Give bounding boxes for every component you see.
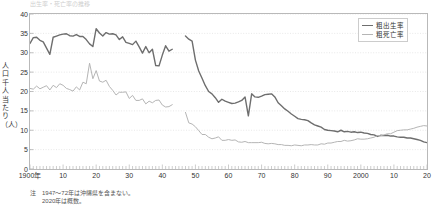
x-tick-label: 80 bbox=[291, 171, 299, 180]
y-tick-label: 35 bbox=[12, 30, 28, 37]
legend-item-death-rate: 粗死亡率 bbox=[362, 30, 404, 39]
x-tick-label: 2000 bbox=[353, 171, 369, 180]
x-tick-label: 70 bbox=[258, 171, 266, 180]
y-tick-label: 20 bbox=[12, 88, 28, 95]
x-tick-label: 1900年 bbox=[19, 171, 42, 180]
y-tick-label: 10 bbox=[12, 127, 28, 134]
y-tick-label: 5 bbox=[12, 146, 28, 153]
series-line-death-rate bbox=[30, 63, 172, 107]
footnote-line-1: 1947～72年は沖縄県を含まない。 bbox=[42, 189, 134, 197]
y-tick-label: 30 bbox=[12, 49, 28, 56]
x-tick-label: 40 bbox=[158, 171, 166, 180]
footnote-body: 1947～72年は沖縄県を含まない。 2020年は概数。 bbox=[42, 189, 134, 205]
x-tick-label: 20 bbox=[423, 171, 431, 180]
x-tick-label: 10 bbox=[390, 171, 398, 180]
series-line-birth-rate bbox=[30, 29, 172, 66]
chart-title-cut: 出生率・死亡率の推移 bbox=[30, 0, 330, 7]
x-tick-label: 20 bbox=[92, 171, 100, 180]
y-tick-label: 25 bbox=[12, 69, 28, 76]
series-line-death-rate bbox=[185, 112, 427, 145]
x-tick-label: 50 bbox=[192, 171, 200, 180]
x-tick-label: 30 bbox=[125, 171, 133, 180]
chart-figure: 出生率・死亡率の推移 人口千人当たり（人） 0510152025303540 1… bbox=[0, 0, 444, 209]
y-tick-label: 15 bbox=[12, 107, 28, 114]
footnote-line-2: 2020年は概数。 bbox=[42, 197, 134, 205]
x-tick-label: 60 bbox=[225, 171, 233, 180]
x-axis-labels: 1900年10203040506070809020001020 bbox=[0, 171, 444, 183]
legend-line-death-icon bbox=[362, 34, 373, 35]
chart-footnote: 注 1947～72年は沖縄県を含まない。 2020年は概数。 bbox=[30, 189, 330, 205]
series-line-birth-rate bbox=[185, 36, 427, 143]
legend-label-birth-rate: 粗出生率 bbox=[376, 21, 404, 30]
y-tick-label: 40 bbox=[12, 11, 28, 18]
legend-label-death-rate: 粗死亡率 bbox=[376, 30, 404, 39]
footnote-mark: 注 bbox=[30, 189, 42, 197]
x-tick-label: 90 bbox=[324, 171, 332, 180]
legend-line-birth-icon bbox=[362, 25, 373, 26]
x-tick-label: 10 bbox=[59, 171, 67, 180]
chart-legend: 粗出生率 粗死亡率 bbox=[358, 18, 408, 42]
legend-item-birth-rate: 粗出生率 bbox=[362, 21, 404, 30]
